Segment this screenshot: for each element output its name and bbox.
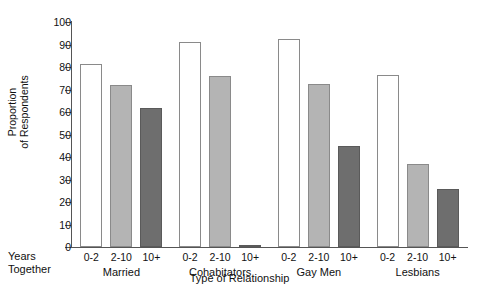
bar-gay-men-0-2 (278, 39, 300, 247)
bar-gay-men-10+ (338, 146, 360, 247)
y-tick-label: 50 (45, 130, 71, 140)
x-category-label: 10+ (131, 252, 171, 263)
bar-gay-men-2-10 (308, 84, 330, 247)
x-axis-title: Type of Relationship (0, 272, 479, 284)
bar-chart: Proportion of Respondents 01020304050607… (0, 0, 479, 295)
years-together-line-1: Years (8, 250, 51, 263)
bar-cohabitators-0-2 (179, 42, 201, 247)
bar-married-0-2 (80, 64, 102, 247)
y-tick-label-wrap: 70 (0, 85, 71, 95)
plot-area (72, 22, 467, 247)
y-tick-label-wrap: 90 (0, 40, 71, 50)
bar-married-10+ (140, 108, 162, 248)
x-category-label: 10+ (428, 252, 468, 263)
y-tick-label: 20 (45, 197, 71, 207)
bar-married-2-10 (110, 85, 132, 247)
bar-lesbians-10+ (437, 189, 459, 248)
y-tick-label-wrap: 40 (0, 152, 71, 162)
y-tick-label: 100 (45, 17, 71, 27)
x-category-label: 10+ (230, 252, 270, 263)
y-tick-label: 40 (45, 152, 71, 162)
x-category-label: 10+ (329, 252, 369, 263)
y-tick-label: 80 (45, 62, 71, 72)
y-tick-label-wrap: 20 (0, 197, 71, 207)
y-tick-label: 90 (45, 40, 71, 50)
bar-lesbians-2-10 (407, 164, 429, 247)
y-tick-label-wrap: 30 (0, 175, 71, 185)
y-tick-label-wrap: 60 (0, 107, 71, 117)
bar-cohabitators-2-10 (209, 76, 231, 247)
y-tick-label-wrap: 50 (0, 130, 71, 140)
y-tick-label: 30 (45, 175, 71, 185)
y-tick-label-wrap: 80 (0, 62, 71, 72)
y-tick-label: 70 (45, 85, 71, 95)
y-tick-label: 60 (45, 107, 71, 117)
y-tick-label-wrap: 100 (0, 17, 71, 27)
bar-cohabitators-10+ (239, 245, 261, 247)
x-axis-line (71, 247, 468, 248)
y-tick-label-wrap: 10 (0, 220, 71, 230)
y-tick-label: 10 (45, 220, 71, 230)
bar-lesbians-0-2 (377, 75, 399, 247)
